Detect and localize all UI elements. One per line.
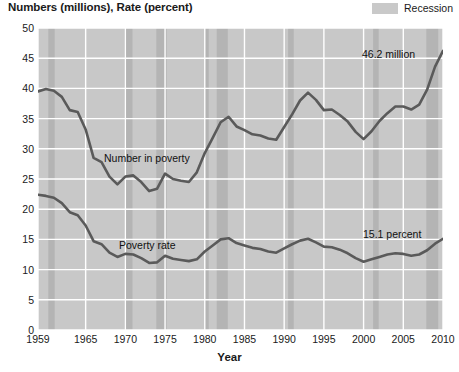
x-tick-label: 1975 [153, 333, 176, 345]
gridlines [38, 28, 443, 330]
series-tag-number-in-poverty: Number in poverty [104, 152, 190, 164]
plot-svg [38, 28, 443, 330]
annotation-number-end: 46.2 million [362, 48, 415, 60]
plot-area [38, 28, 443, 330]
annotation-rate-end: 15.1 percent [363, 228, 421, 240]
x-tick-label: 1965 [74, 333, 97, 345]
x-tick-label: 2010 [431, 333, 454, 345]
x-tick-label: 1959 [26, 333, 49, 345]
series-line-number-in-poverty [38, 51, 443, 191]
x-tick-label: 1985 [233, 333, 256, 345]
x-axis-title: Year [0, 351, 459, 363]
x-tick-label: 2000 [352, 333, 375, 345]
poverty-chart: Numbers (millions), Rate (percent) Reces… [0, 0, 459, 372]
x-tick-label: 1995 [312, 333, 335, 345]
x-tick-label: 1980 [193, 333, 216, 345]
series-tag-poverty-rate: Poverty rate [119, 239, 176, 251]
x-tick-label: 2005 [392, 333, 415, 345]
x-tick-label: 1970 [114, 333, 137, 345]
x-tick-label: 1990 [272, 333, 295, 345]
